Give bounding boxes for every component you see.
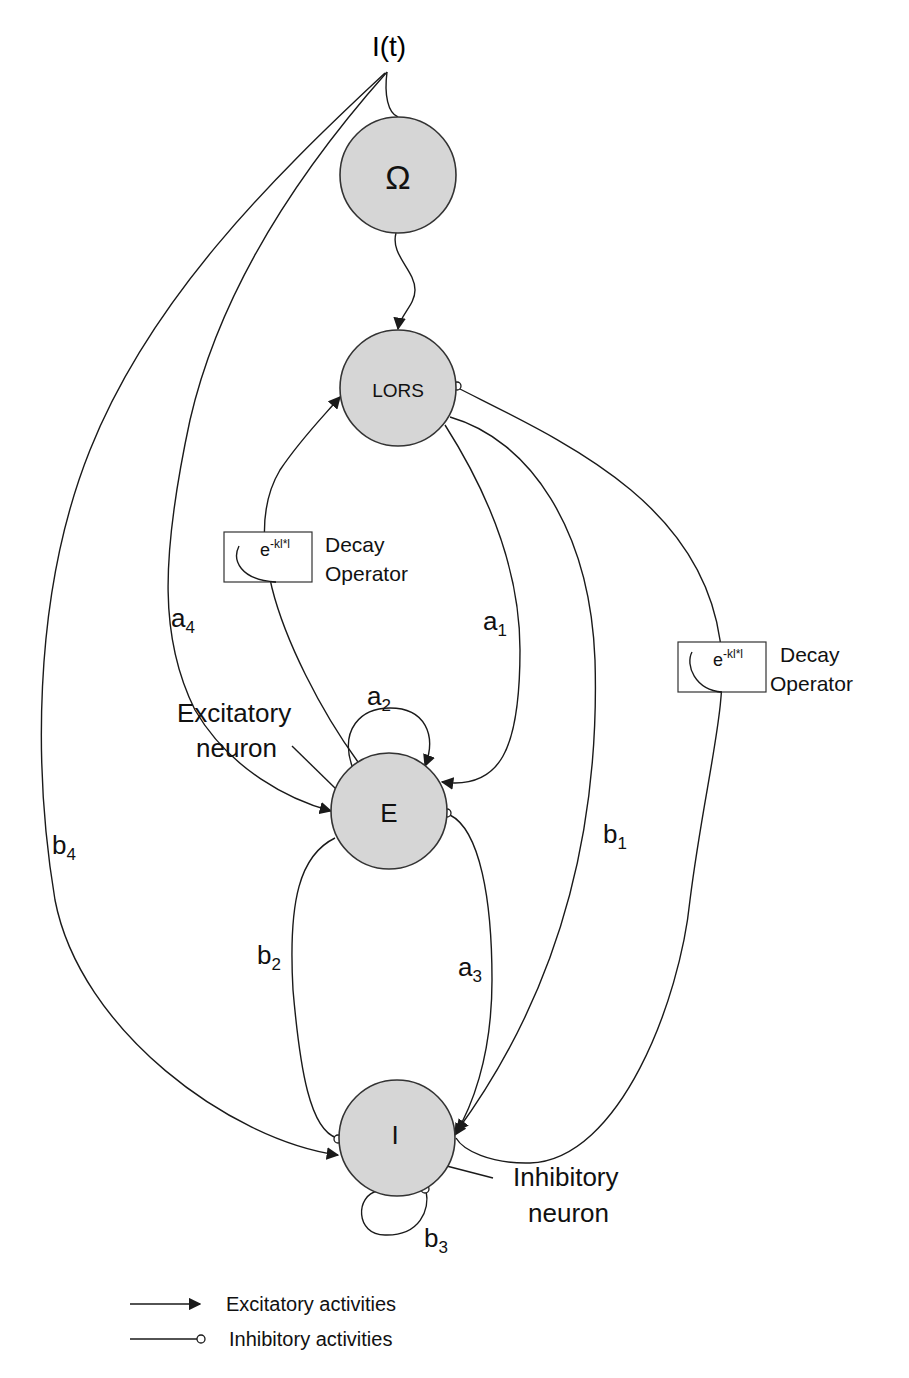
node-lors-label: LORS: [372, 380, 424, 401]
node-excitatory-label: E: [380, 798, 397, 828]
edge-lors-to-i-via-decay: [456, 388, 722, 1163]
excitatory-neuron-label-line2: neuron: [196, 733, 277, 763]
decay-label-left-line1: Decay: [325, 533, 385, 556]
decay-label-right-line1: Decay: [780, 643, 840, 666]
edge-omega-to-lors: [395, 233, 415, 329]
inhibitory-neuron-label-line1: Inhibitory: [513, 1162, 619, 1192]
edge-b4-input-to-i: [41, 73, 385, 1155]
input-label: I(t): [372, 31, 406, 62]
node-omega[interactable]: Ω: [340, 117, 456, 233]
legend: Excitatory activities Inhibitory activit…: [130, 1293, 396, 1350]
node-lors[interactable]: LORS: [340, 330, 456, 446]
edge-b2-i-to-e: [292, 838, 337, 1138]
neural-network-diagram: Ω LORS E I I(t) e-kl*l Decay Operator e-…: [0, 0, 909, 1378]
edge-label-a1: a1: [483, 606, 507, 640]
edge-b1-lors-to-i: [450, 417, 595, 1131]
edge-label-b1: b1: [603, 819, 627, 853]
edge-b3-i-self-loop: [362, 1190, 427, 1235]
node-omega-label: Ω: [385, 158, 410, 196]
decay-operator-left: e-kl*l Decay Operator: [224, 532, 408, 585]
edge-label-a4: a4: [171, 603, 195, 637]
decay-operator-right: e-kl*l Decay Operator: [678, 642, 853, 695]
node-excitatory[interactable]: E: [331, 753, 447, 869]
edge-label-b4: b4: [52, 830, 76, 864]
edge-a1-lors-to-e: [442, 425, 520, 783]
node-inhibitory-label: I: [391, 1120, 398, 1150]
edge-input-to-omega: [386, 72, 398, 117]
node-inhibitory[interactable]: I: [339, 1080, 455, 1196]
decay-label-right-line2: Operator: [770, 672, 853, 695]
legend-inhibitory-label: Inhibitory activities: [229, 1328, 392, 1350]
decay-label-left-line2: Operator: [325, 562, 408, 585]
legend-excitatory-label: Excitatory activities: [226, 1293, 396, 1315]
edge-label-b3: b3: [424, 1223, 448, 1257]
inhibitory-neuron-label-line2: neuron: [528, 1198, 609, 1228]
legend-inhibitory-circle-icon: [197, 1335, 205, 1343]
edge-label-a2: a2: [367, 681, 391, 715]
edge-label-b2: b2: [257, 940, 281, 974]
excitatory-neuron-label-line1: Excitatory: [177, 698, 291, 728]
excitatory-neuron-pointer: [292, 746, 336, 789]
edge-label-a3: a3: [458, 952, 482, 986]
